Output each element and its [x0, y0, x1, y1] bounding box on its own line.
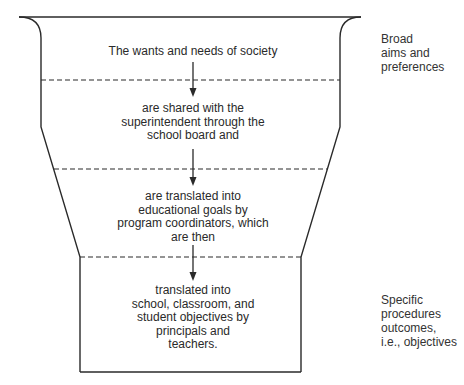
stage-3-text: are translated into educational goals by… — [93, 190, 293, 244]
stage-4-text: translated into school, classroom, and s… — [93, 284, 293, 352]
side-label-specific: Specific procedures outcomes, i.e., obje… — [381, 293, 457, 349]
funnel-right-wall — [301, 17, 361, 372]
arrow-down-icon — [190, 245, 197, 281]
stage-1-text: The wants and needs of society — [93, 45, 293, 59]
funnel-left-wall — [19, 17, 80, 372]
arrow-down-icon — [190, 149, 197, 186]
stage-2-text: are shared with the superintendent throu… — [93, 102, 293, 143]
side-label-broad: Broad aims and preferences — [381, 32, 444, 74]
